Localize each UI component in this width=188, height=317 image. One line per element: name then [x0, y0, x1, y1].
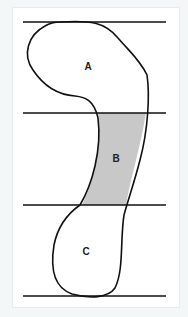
- region-label-c: C: [82, 246, 89, 257]
- region-label-b: B: [112, 153, 119, 164]
- region-label-a: A: [84, 61, 91, 72]
- bone-diagram: [0, 0, 188, 317]
